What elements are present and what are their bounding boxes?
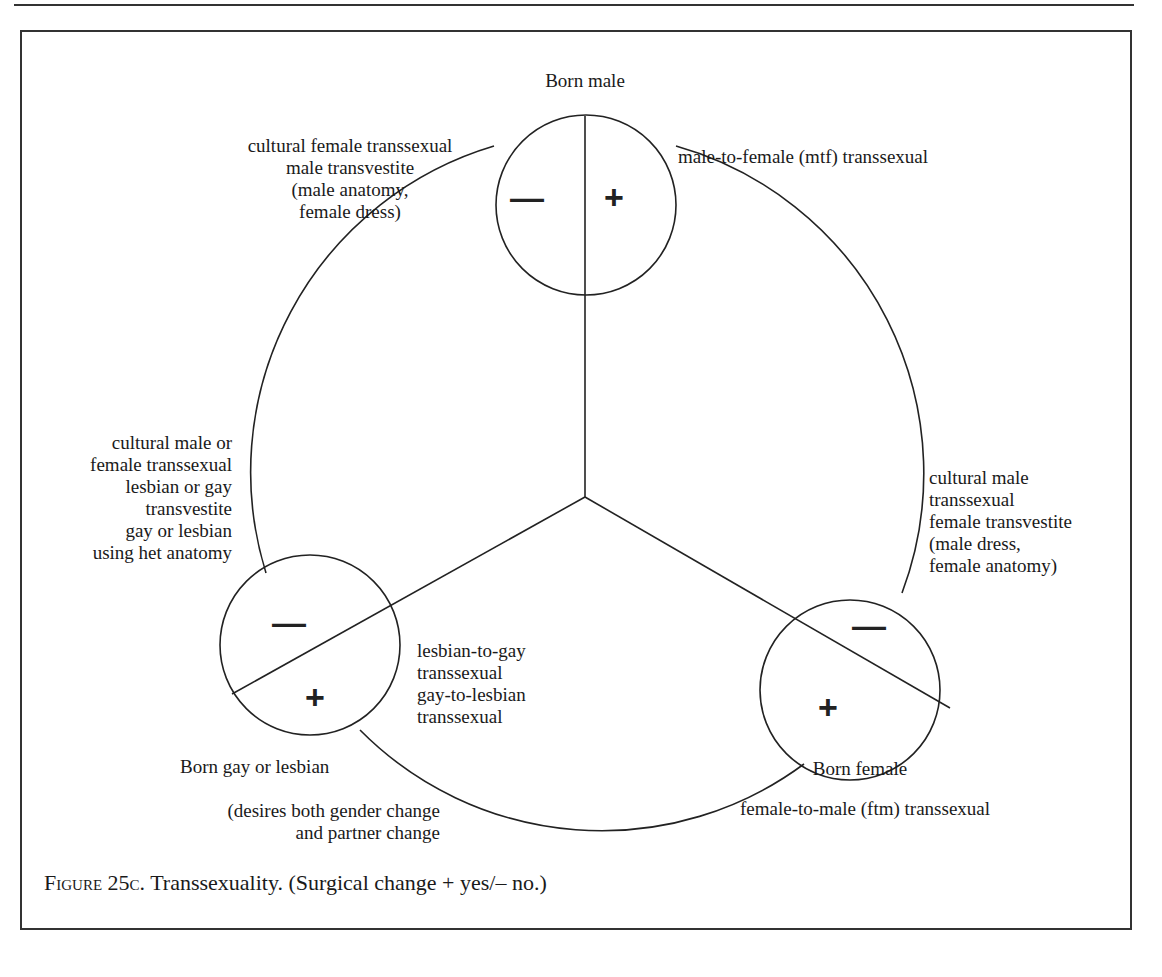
node-bottom-right-minus-label: cultural male transsexual female transve… bbox=[929, 467, 1129, 577]
figure-caption: Figure 25c. Transsexuality. (Surgical ch… bbox=[44, 870, 547, 896]
node-bottom-left-plus-label: lesbian-to-gay transsexual gay-to-lesbia… bbox=[417, 640, 617, 728]
spoke-right bbox=[585, 497, 950, 708]
minus-sign-bottom-left: — bbox=[272, 605, 306, 639]
node-bottom-right-plus-label: female-to-male (ftm) transsexual bbox=[700, 798, 1030, 820]
node-bottom-left-subtitle: (desires both gender change and partner … bbox=[150, 800, 440, 844]
figure-caption-text: Transsexuality. (Surgical change + yes/–… bbox=[145, 870, 547, 895]
node-top-plus-label: male-to-female (mtf) transsexual bbox=[678, 146, 1008, 168]
minus-sign-top: — bbox=[510, 180, 544, 214]
plus-sign-bottom-left: + bbox=[305, 680, 325, 714]
node-circle-bottom-right bbox=[760, 600, 940, 780]
node-bottom-left-title: Born gay or lesbian bbox=[180, 756, 440, 778]
node-top-minus-label: cultural female transsexual male transve… bbox=[215, 135, 485, 223]
minus-sign-bottom-right: — bbox=[852, 608, 886, 642]
plus-sign-bottom-right: + bbox=[818, 690, 838, 724]
outer-arc-right bbox=[676, 146, 924, 593]
node-bottom-right-title: Born female bbox=[760, 758, 960, 780]
node-top-title: Born male bbox=[520, 70, 650, 92]
plus-sign-top: + bbox=[604, 180, 624, 214]
figure-caption-label: Figure 25c. bbox=[44, 870, 145, 895]
node-bottom-left-minus-label: cultural male or female transsexual lesb… bbox=[40, 432, 232, 564]
